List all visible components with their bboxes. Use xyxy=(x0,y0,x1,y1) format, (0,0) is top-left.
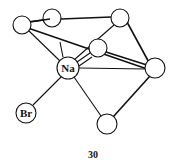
atom-c4 xyxy=(89,39,107,57)
bond-stub-na xyxy=(60,42,63,57)
molecular-structure-diagram: Na Br 30 xyxy=(0,0,174,164)
bond-na-br xyxy=(33,77,61,105)
atom-c6 xyxy=(97,114,117,134)
atom-label-na: Na xyxy=(61,62,75,74)
bond-c2-c3 xyxy=(61,17,111,19)
atom-c5 xyxy=(145,58,165,78)
atom-c3 xyxy=(111,9,129,27)
atom-label-br: Br xyxy=(20,107,32,119)
bonds xyxy=(28,17,152,117)
atom-c1 xyxy=(13,16,31,34)
bond-c4-na-second xyxy=(79,57,92,66)
bond-c4-na xyxy=(77,53,90,62)
bond-na-c5 xyxy=(79,68,146,69)
atoms: Na Br xyxy=(13,9,165,134)
atom-c2 xyxy=(43,9,61,27)
bond-c5-c6 xyxy=(113,76,150,117)
bond-c4-c5 xyxy=(106,52,150,66)
bond-c1-na xyxy=(29,31,60,61)
figure-caption: 30 xyxy=(88,149,98,160)
bond-na-c6 xyxy=(74,77,101,116)
